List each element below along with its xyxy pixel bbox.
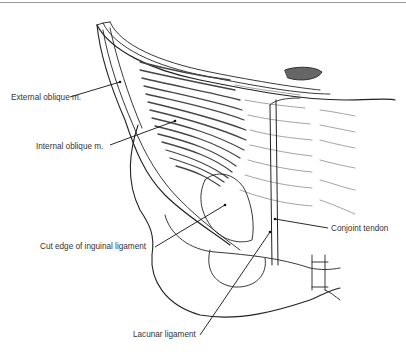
leader-cut-edge [155, 205, 225, 247]
label-conjoint-tendon: Conjoint tendon [331, 224, 388, 234]
label-internal-oblique: Internal oblique m. [36, 142, 103, 152]
label-lacunar-ligament: Lacunar ligament [133, 330, 196, 340]
anatomical-illustration [0, 0, 406, 352]
leader-conjoint [275, 219, 328, 228]
label-external-oblique: External oblique m. [11, 93, 81, 103]
label-cut-edge-inguinal-ligament: Cut edge of inguinal ligament [40, 242, 146, 252]
leader-lacunar [200, 232, 270, 335]
leader-internal-oblique [110, 121, 175, 145]
